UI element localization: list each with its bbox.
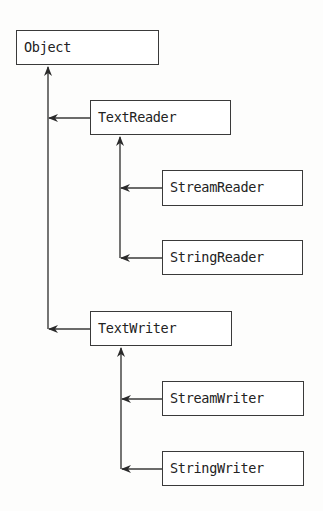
- node-streamwriter: StreamWriter: [162, 381, 304, 416]
- node-object: Object: [16, 30, 159, 65]
- node-label: StreamReader: [170, 181, 264, 195]
- node-stringreader: StringReader: [162, 240, 303, 275]
- node-label: TextWriter: [98, 322, 176, 336]
- node-stringwriter: StringWriter: [162, 451, 304, 486]
- node-streamreader: StreamReader: [162, 170, 303, 206]
- node-label: StringWriter: [170, 462, 264, 476]
- node-label: StringReader: [170, 251, 264, 265]
- node-label: StreamWriter: [170, 392, 264, 406]
- node-textreader: TextReader: [90, 100, 231, 135]
- node-label: Object: [24, 41, 71, 55]
- node-label: TextReader: [98, 111, 176, 125]
- node-textwriter: TextWriter: [90, 311, 232, 346]
